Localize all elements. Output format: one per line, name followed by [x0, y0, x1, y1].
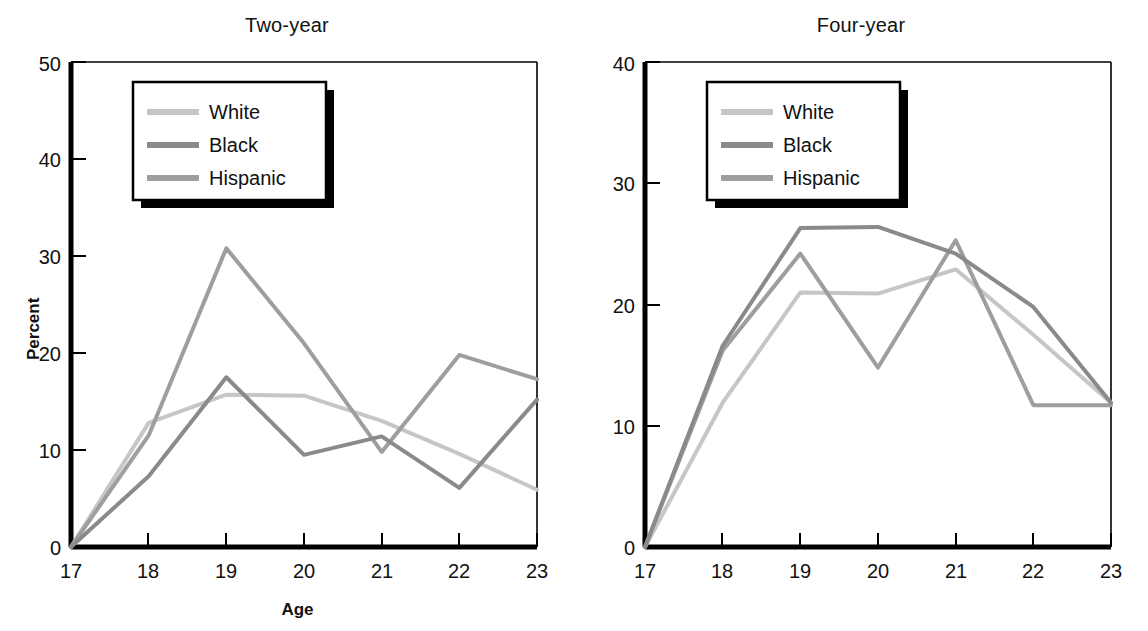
series-lines-two-year — [71, 248, 537, 547]
chart-svg-four-year: 0 10 20 30 40 17 18 — [574, 0, 1148, 631]
y-tick-label: 40 — [613, 53, 635, 75]
legend-label-black[interactable]: Black — [783, 134, 833, 156]
legend-label-white[interactable]: White — [783, 101, 834, 123]
y-tick-label: 30 — [39, 246, 61, 268]
y-tick-label: 10 — [39, 440, 61, 462]
legend-label-white[interactable]: White — [209, 101, 260, 123]
series-line-black — [71, 377, 537, 547]
x-tick-label: 18 — [137, 560, 159, 582]
panel-two-year: Two-year — [0, 0, 574, 631]
x-tick-label: 19 — [789, 560, 811, 582]
y-tick-label: 20 — [613, 295, 635, 317]
x-tick-label: 19 — [215, 560, 237, 582]
x-tick-label: 20 — [293, 560, 315, 582]
x-tick-label: 23 — [526, 560, 548, 582]
chart-svg-two-year: 0 10 20 30 40 50 — [0, 0, 574, 631]
x-axis-title-two-year: Age — [55, 600, 540, 620]
legend-four-year: WhiteBlackHispanic — [707, 82, 908, 208]
x-tick-label: 20 — [867, 560, 889, 582]
series-line-black — [645, 227, 1111, 547]
series-line-white — [71, 395, 537, 547]
y-axis-title-two-year: Percent — [24, 298, 44, 360]
x-tick-label: 17 — [60, 560, 82, 582]
y-tick-label: 0 — [624, 537, 635, 559]
plot-area-four-year: 0 10 20 30 40 17 18 — [574, 0, 1148, 631]
x-tick-labels-four-year: 17 18 19 20 21 22 23 — [634, 560, 1122, 582]
plot-area-two-year: 0 10 20 30 40 50 — [0, 0, 574, 631]
y-tick-labels-four-year: 0 10 20 30 40 — [613, 53, 635, 559]
x-tick-label: 21 — [945, 560, 967, 582]
y-tick-label: 40 — [39, 149, 61, 171]
x-tick-label: 18 — [711, 560, 733, 582]
y-tick-label: 50 — [39, 53, 61, 75]
y-tick-label: 30 — [613, 173, 635, 195]
legend-label-hispanic[interactable]: Hispanic — [783, 167, 860, 189]
series-lines-four-year — [645, 227, 1111, 547]
figure-root: Two-year — [0, 0, 1148, 631]
x-tick-label: 22 — [1022, 560, 1044, 582]
legend-label-hispanic[interactable]: Hispanic — [209, 167, 286, 189]
y-tick-label: 0 — [50, 537, 61, 559]
x-tick-label: 21 — [371, 560, 393, 582]
legend-label-black[interactable]: Black — [209, 134, 259, 156]
x-tick-label: 22 — [448, 560, 470, 582]
legend-two-year: WhiteBlackHispanic — [133, 82, 334, 208]
panel-four-year: Four-year 0 10 — [574, 0, 1148, 631]
x-tick-label: 23 — [1100, 560, 1122, 582]
x-tick-labels-two-year: 17 18 19 20 21 22 23 — [60, 560, 548, 582]
y-tick-label: 10 — [613, 416, 635, 438]
series-line-hispanic — [645, 240, 1111, 547]
series-line-white — [645, 269, 1111, 547]
x-tick-label: 17 — [634, 560, 656, 582]
